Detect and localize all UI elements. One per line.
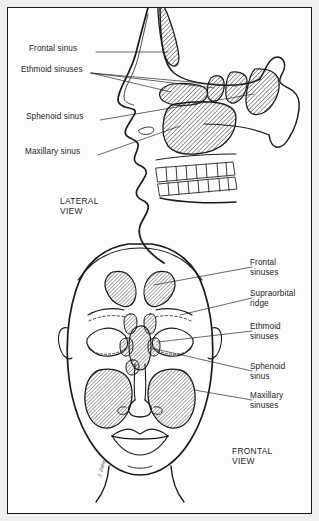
label-frontal-maxillary-sinuses: Maxillary sinuses bbox=[250, 391, 283, 410]
figure-page: Frontal sinus Ethmoid sinuses Sphenoid s… bbox=[0, 0, 319, 521]
frontal-brow-right bbox=[156, 309, 192, 315]
frontal-upper-lip bbox=[112, 429, 168, 436]
lateral-ethmoid-cell-2 bbox=[207, 76, 224, 102]
caption-lateral-view: LATERAL VIEW bbox=[60, 196, 99, 216]
lateral-nostril bbox=[139, 127, 154, 134]
lateral-lower-teeth bbox=[158, 177, 237, 196]
leader-ethmoid-b bbox=[91, 73, 214, 88]
lateral-frontal-sinus bbox=[158, 8, 179, 66]
lateral-nose-inner bbox=[124, 14, 148, 105]
frontal-nose-bridge-2 bbox=[145, 364, 146, 400]
frontal-sphenoid-sinus bbox=[129, 326, 151, 370]
label-frontal-sphenoid-sinus: Sphenoid sinus bbox=[250, 362, 285, 381]
leader-supraorbital-ridge bbox=[180, 298, 252, 315]
frontal-nose-bridge bbox=[134, 364, 135, 400]
label-lateral-sphenoid-sinus: Sphenoid sinus bbox=[26, 112, 83, 122]
caption-frontal-view: FRONTAL VIEW bbox=[232, 446, 273, 466]
frontal-ear-left bbox=[58, 328, 72, 359]
label-frontal-frontal-sinuses: Frontal sinuses bbox=[250, 258, 278, 277]
frontal-chin bbox=[128, 466, 152, 468]
lateral-upper-teeth bbox=[156, 162, 235, 182]
frontal-brow-left-inner bbox=[89, 316, 125, 321]
frontal-view-group bbox=[58, 244, 252, 502]
leader-maxillary-sinuses bbox=[194, 390, 252, 400]
frontal-nose-tip bbox=[128, 400, 151, 417]
leader-ethmoid-a bbox=[91, 73, 171, 92]
frontal-brow-left bbox=[88, 309, 124, 315]
frontal-sinus-left bbox=[105, 271, 136, 306]
lateral-sphenoid-sinus bbox=[246, 69, 279, 115]
frontal-neck-right bbox=[171, 466, 184, 502]
lateral-palate bbox=[156, 154, 236, 160]
leader-sphenoid-sinus-f bbox=[151, 348, 252, 371]
frontal-ear-right bbox=[208, 328, 222, 359]
label-lateral-maxillary-sinus: Maxillary sinus bbox=[25, 147, 80, 157]
frontal-maxillary-sinus-right bbox=[148, 369, 195, 428]
frontal-mouth-line bbox=[112, 436, 168, 439]
label-lateral-ethmoid-sinuses: Ethmoid sinuses bbox=[21, 65, 83, 75]
frontal-hairline bbox=[78, 248, 202, 280]
figure-plate: Frontal sinus Ethmoid sinuses Sphenoid s… bbox=[7, 7, 312, 514]
lateral-mandible bbox=[160, 198, 236, 203]
label-frontal-ethmoid-sinuses: Ethmoid sinuses bbox=[250, 322, 281, 341]
label-frontal-supraorbital-ridge: Supraorbital ridge bbox=[250, 289, 295, 308]
label-lateral-frontal-sinus: Frontal sinus bbox=[29, 44, 77, 54]
frontal-sinus-right bbox=[144, 271, 175, 306]
frontal-maxillary-sinus-left bbox=[85, 369, 132, 428]
lateral-view-group bbox=[91, 8, 299, 263]
frontal-brow-right-inner bbox=[155, 316, 191, 321]
leader-ethmoid-sinuses bbox=[158, 331, 252, 342]
